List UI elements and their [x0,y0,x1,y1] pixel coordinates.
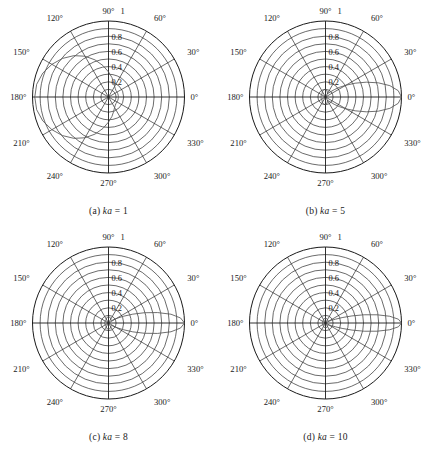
angle-tick-label-330: 330° [187,138,204,148]
caption-d-symbol: ka [318,432,327,442]
caption-b: (b) ka = 5 [217,206,434,216]
polar-spoke-150 [43,285,109,323]
angle-tick-label-210: 210° [13,138,30,148]
polar-spoke-120 [288,257,326,323]
polar-spoke-330 [109,323,175,361]
angle-tick-label-330: 330° [187,364,204,374]
angle-tick-label-0: 0° [191,318,199,328]
polar-panel-c: 0°30°60°90°120°150°180°210°240°270°300°3… [0,226,217,452]
radial-tick-label-0.2: 0.2 [329,78,339,87]
polar-axes: 0°30°60°90°120°150°180°210°240°270°300°3… [227,232,421,414]
angle-tick-label-60: 60° [154,239,167,249]
caption-a-prefix: (a) [89,206,100,216]
radial-tick-label-0.8: 0.8 [329,259,339,268]
angle-tick-label-60: 60° [371,239,384,249]
polar-spoke-120 [71,31,109,97]
angle-tick-label-30: 30° [187,47,200,57]
polar-spoke-330 [326,323,392,361]
angle-tick-label-150: 150° [230,47,247,57]
angle-tick-label-90: 90° [102,232,115,242]
caption-b-symbol: ka [320,206,329,216]
polar-panel-a: 0°30°60°90°120°150°180°210°240°270°300°3… [0,0,217,226]
angle-tick-label-90: 90° [319,232,332,242]
polar-spoke-150 [260,285,326,323]
polar-spoke-120 [71,257,109,323]
angle-tick-label-120: 120° [264,239,281,249]
polar-axes: 0°30°60°90°120°150°180°210°240°270°300°3… [10,232,204,414]
radial-tick-label-0.8: 0.8 [329,33,339,42]
polar-spoke-330 [109,97,175,135]
caption-b-value: = 5 [332,206,345,216]
caption-a-value: = 1 [115,206,128,216]
caption-b-prefix: (b) [306,206,318,216]
polar-spoke-210 [260,323,326,361]
polar-spoke-120 [288,31,326,97]
angle-tick-label-150: 150° [13,273,30,283]
radial-tick-label-1: 1 [121,232,125,242]
polar-axes: 0°30°60°90°120°150°180°210°240°270°300°3… [227,6,421,188]
angle-tick-label-300: 300° [371,397,388,407]
angle-tick-label-270: 270° [100,178,117,188]
angle-tick-label-240: 240° [47,397,64,407]
caption-c-prefix: (c) [89,432,100,442]
polar-panel-d: 0°30°60°90°120°150°180°210°240°270°300°3… [217,226,434,452]
caption-c: (c) ka = 8 [0,432,217,442]
angle-tick-label-300: 300° [154,171,171,181]
polar-spoke-240 [288,323,326,389]
angle-tick-label-210: 210° [230,364,247,374]
caption-a-symbol: ka [103,206,112,216]
angle-tick-label-120: 120° [47,13,64,23]
radial-tick-label-1: 1 [121,6,125,16]
polar-spoke-240 [71,97,109,163]
polar-spoke-300 [326,323,364,389]
radial-tick-label-0.2: 0.2 [329,304,339,313]
angle-tick-label-180: 180° [227,318,244,328]
polar-panel-b: 0°30°60°90°120°150°180°210°240°270°300°3… [217,0,434,226]
caption-d-prefix: (d) [303,432,315,442]
angle-tick-label-240: 240° [47,171,64,181]
polar-plot-c: 0°30°60°90°120°150°180°210°240°270°300°3… [0,226,217,452]
angle-tick-label-210: 210° [230,138,247,148]
angle-tick-label-300: 300° [371,171,388,181]
radial-tick-label-0.4: 0.4 [112,63,123,72]
angle-tick-label-60: 60° [154,13,167,23]
radial-tick-label-0.4: 0.4 [329,63,340,72]
radial-tick-label-0.6: 0.6 [329,274,339,283]
polar-spoke-210 [43,97,109,135]
polar-directivity-figure: 0°30°60°90°120°150°180°210°240°270°300°3… [0,0,434,452]
radial-tick-label-0.4: 0.4 [329,289,340,298]
caption-d-value: = 10 [330,432,348,442]
polar-spoke-150 [260,59,326,97]
radial-tick-label-0.6: 0.6 [112,274,122,283]
angle-tick-label-150: 150° [13,47,30,57]
radial-tick-label-0.6: 0.6 [112,48,122,57]
angle-tick-label-90: 90° [319,6,332,16]
angle-tick-label-30: 30° [187,273,200,283]
angle-tick-label-0: 0° [191,92,199,102]
angle-tick-label-270: 270° [100,404,117,414]
angle-tick-label-120: 120° [264,13,281,23]
polar-plot-b: 0°30°60°90°120°150°180°210°240°270°300°3… [217,0,434,226]
polar-axes: 0°30°60°90°120°150°180°210°240°270°300°3… [10,6,204,188]
angle-tick-label-270: 270° [317,404,334,414]
angle-tick-label-270: 270° [317,178,334,188]
radial-tick-label-0.8: 0.8 [112,259,122,268]
caption-a: (a) ka = 1 [0,206,217,216]
polar-spoke-330 [326,97,392,135]
polar-spoke-300 [109,97,147,163]
angle-tick-label-0: 0° [408,318,416,328]
radial-tick-label-0.4: 0.4 [112,289,123,298]
angle-tick-label-0: 0° [408,92,416,102]
polar-plot-a: 0°30°60°90°120°150°180°210°240°270°300°3… [0,0,217,226]
radial-tick-label-0.6: 0.6 [329,48,339,57]
angle-tick-label-60: 60° [371,13,384,23]
radial-tick-label-0.2: 0.2 [112,304,122,313]
polar-spoke-150 [43,59,109,97]
angle-tick-label-330: 330° [404,138,421,148]
angle-tick-label-300: 300° [154,397,171,407]
polar-spoke-210 [260,97,326,135]
radial-tick-label-1: 1 [338,6,342,16]
polar-spoke-210 [43,323,109,361]
radial-tick-label-0.8: 0.8 [112,33,122,42]
angle-tick-label-330: 330° [404,364,421,374]
